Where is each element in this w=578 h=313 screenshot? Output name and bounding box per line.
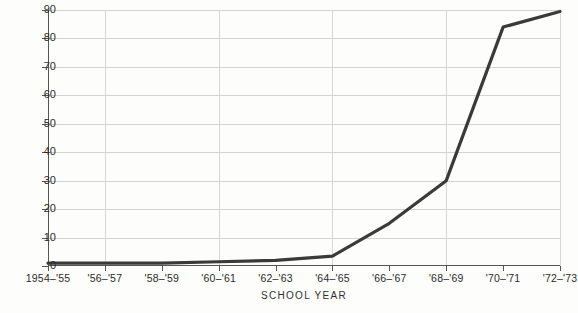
x-axis-tick [332,266,333,271]
x-axis-tick [162,266,163,271]
x-axis-tick-label: '56–'57 [88,272,123,284]
x-axis-title: SCHOOL YEAR [48,290,560,301]
gridline-vertical [560,10,561,266]
y-axis-tick-label: 60 [16,88,56,100]
x-axis-tick [105,266,106,271]
y-axis-tick-label: 30 [16,174,56,186]
x-axis-tick [446,266,447,271]
x-axis-tick-label: '72–'73 [543,272,578,284]
y-axis-tick-label: 40 [16,145,56,157]
series-line [48,10,560,266]
y-axis-tick-label: 10 [16,231,56,243]
data-series-polyline [48,11,560,263]
x-axis-tick-label: '66–'67 [372,272,407,284]
x-axis-tick-label: 1954–'55 [26,272,70,284]
y-axis-tick-label: 90 [16,3,56,15]
x-axis-tick [389,266,390,271]
x-axis-tick [503,266,504,271]
y-axis-tick-label: 0 [16,259,56,271]
y-axis-tick-label: 20 [16,202,56,214]
y-axis-tick-label: 50 [16,117,56,129]
x-axis-tick [219,266,220,271]
x-axis-tick-label: '58–'59 [144,272,179,284]
y-axis-tick-label: 70 [16,60,56,72]
x-axis-tick-label: '68–'69 [429,272,464,284]
x-axis-tick-label: '60–'61 [201,272,236,284]
y-axis-tick-label: 80 [16,31,56,43]
x-axis-tick [560,266,561,271]
line-chart: PERCENTAGE 0102030405060708090 1954–'55'… [0,0,578,313]
x-axis-tick-label: '64–'65 [315,272,350,284]
x-axis-tick-label: '62–'63 [258,272,293,284]
x-axis-tick-label: '70–'71 [486,272,521,284]
plot-area [48,10,560,266]
x-axis-tick [276,266,277,271]
